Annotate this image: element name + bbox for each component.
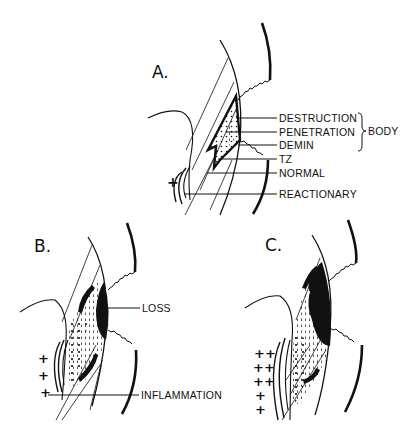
enamel-outer-edge [348,220,356,263]
label-reactionary: REACTIONARY [279,188,357,200]
label-normal: NORMAL [279,167,325,179]
fracture-line-upper [108,272,135,290]
label-demin: DEMIN [279,139,314,151]
label-body: BODY [368,125,399,137]
label-tz: TZ [279,153,293,165]
fracture-line-lower [108,330,132,344]
inflammation-plus-icon: ++ [253,374,275,389]
panel-c-label: C. [265,235,282,255]
body-bracket [358,113,366,151]
label-destruction: DESTRUCTION [279,112,357,124]
inflammation-plus-icon: ++ [253,360,275,375]
label-inflammation: INFLAMMATION [141,389,222,401]
fracture-line-lower [330,328,354,342]
label-penetration: PENETRATION [279,126,355,138]
inflammation-plus-icon: + [38,368,49,383]
reactionary-line [279,338,285,418]
panel-a-label: A. [152,62,169,82]
panel-c: C. ++ ++ ++ + + [245,220,362,420]
fracture-line-upper [329,263,356,281]
inflammation-plus-icon: + [38,351,49,366]
inflammation-plus-icon: + [255,402,266,417]
fracture-line-lower [238,140,263,155]
enamel-outer-lower [345,345,362,412]
inflammation-plus-icon: + [167,174,179,190]
panel-b: B. + + + LOSS INFLAMMATION [20,223,222,420]
fracture-line-upper [235,80,270,101]
inflammation-plus-icon: ++ [254,346,276,361]
inflammation-plus-icon: + [255,388,266,403]
reactionary-line [54,342,60,392]
inflammation-plus-icon: + [40,385,51,400]
label-loss: LOSS [142,302,171,314]
enamel-outer-lower [122,350,136,414]
enamel-outer-lower [253,160,268,214]
caries-progression-diagram: A. + DESTRUCTION PENETRATION [0,0,419,444]
panel-a: A. + DESTRUCTION PENETRATION [148,23,399,215]
enamel-outer-edge [127,223,135,272]
panel-b-label: B. [34,236,51,256]
enamel-outer-edge [262,23,270,80]
